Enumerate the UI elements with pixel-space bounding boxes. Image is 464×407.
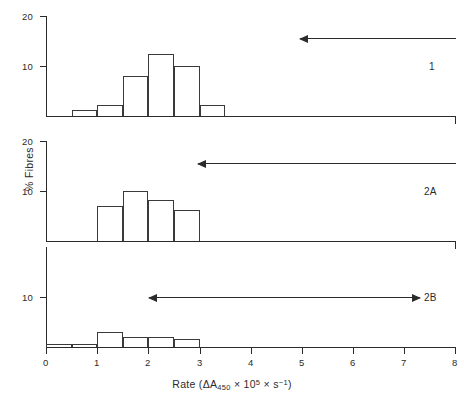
bar [72, 344, 98, 347]
panel-1-ytick-label-10: 10 [22, 61, 33, 72]
bar [174, 210, 200, 241]
bar [97, 206, 123, 241]
x-axis-label-mid2: × s [260, 378, 278, 390]
x-tick-label-6: 6 [350, 357, 355, 368]
x-tick-5 [302, 347, 303, 354]
panel-2b-arrow-shaft [149, 297, 420, 298]
bar [72, 110, 98, 116]
x-tick-label-0: 0 [43, 357, 48, 368]
panel-1-arrow-head-left-icon [299, 35, 308, 43]
bar [123, 191, 149, 241]
x-tick-0 [46, 347, 47, 354]
x-tick-label-2: 2 [145, 357, 150, 368]
panel-1-ytick-20 [40, 16, 47, 17]
panel-2a-arrow-head-left-icon [197, 160, 206, 168]
x-axis-label-prefix: Rate (ΔA [172, 378, 217, 390]
x-tick-label-7: 7 [401, 357, 406, 368]
panel-2a-baseline [46, 241, 456, 242]
figure-histogram-panels: 20 10 1 20 10 [0, 0, 464, 407]
x-tick-1 [97, 347, 98, 354]
y-axis-label: % Fibres [23, 124, 35, 214]
x-axis-label: Rate (ΔA450 × 105 × s−1) [0, 378, 464, 392]
panel-1-ytick-10 [40, 66, 47, 67]
panel-2a-arrow-shaft [198, 163, 456, 164]
panel-1-axis-right-cap [455, 116, 456, 124]
panel-label-1: 1 [429, 61, 435, 72]
x-axis-label-sup-minus1: −1 [279, 378, 288, 387]
panel-2b-arrow-head-left-icon [148, 294, 157, 302]
bar [174, 66, 200, 116]
panel-1-ytick-label-20: 20 [22, 11, 33, 22]
panel-1-baseline [46, 116, 456, 117]
panel-1-arrow [300, 33, 456, 45]
bar [97, 332, 123, 348]
x-axis-label-mid: × 10 [231, 378, 256, 390]
panel-2a-axis-right-cap [455, 241, 456, 249]
panel-2b-ytick-label-10: 10 [22, 292, 33, 303]
panel-2a-ytick-10 [40, 191, 47, 192]
x-tick-6 [353, 347, 354, 354]
bar [148, 337, 174, 347]
x-tick-label-4: 4 [248, 357, 253, 368]
x-tick-label-3: 3 [197, 357, 202, 368]
panel-label-2a: 2A [424, 186, 437, 197]
x-tick-7 [404, 347, 405, 354]
panel-label-2b: 2B [424, 292, 437, 303]
bar [148, 200, 174, 242]
panel-2b-arrow [149, 292, 420, 304]
x-tick-label-8: 8 [452, 357, 457, 368]
x-tick-2 [148, 347, 149, 354]
bar [174, 339, 200, 348]
x-tick-8 [455, 347, 456, 354]
x-tick-label-1: 1 [94, 357, 99, 368]
bar [200, 105, 226, 116]
panel-2a-arrow [198, 158, 456, 170]
panel-2b-ytick-10 [40, 297, 47, 298]
bar [148, 54, 174, 117]
x-tick-3 [200, 347, 201, 354]
bar [97, 105, 123, 117]
bar [123, 76, 149, 116]
panel-2a-ytick-20 [40, 141, 47, 142]
panel-2b-arrow-head-right-icon [412, 294, 421, 302]
x-axis-label-sub-450: 450 [217, 383, 230, 392]
panel-1-arrow-shaft [300, 38, 456, 39]
bar [123, 337, 149, 347]
x-axis-label-suffix: ) [288, 378, 292, 390]
bar [46, 344, 72, 347]
x-tick-4 [251, 347, 252, 354]
x-tick-label-5: 5 [299, 357, 304, 368]
